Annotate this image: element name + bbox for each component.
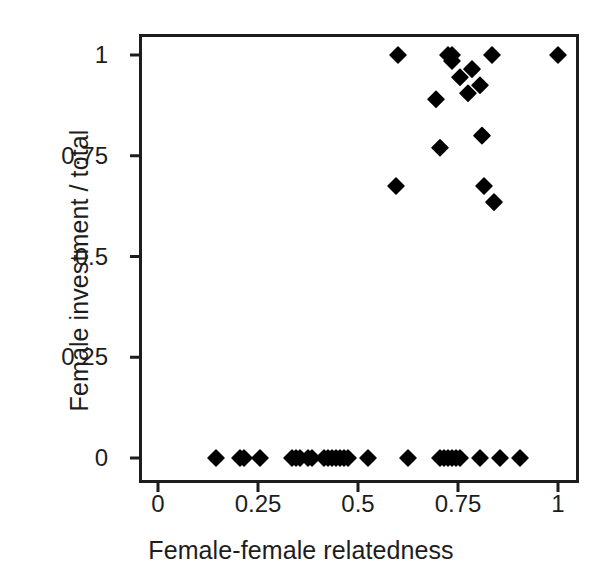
data-point — [492, 450, 508, 466]
y-axis-title: Female investment / total — [65, 41, 94, 501]
data-point — [432, 140, 448, 156]
data-point — [388, 178, 404, 194]
x-tick-label: 0.75 — [435, 490, 482, 518]
data-point — [360, 450, 376, 466]
plot-frame — [141, 36, 578, 482]
data-point — [550, 47, 566, 63]
x-tick-label: 1 — [551, 490, 564, 518]
data-point — [208, 450, 224, 466]
data-point — [252, 450, 268, 466]
scatter-plot-figure: 00.250.50.751 00.250.50.751 Female-femal… — [0, 0, 602, 588]
data-point — [428, 91, 444, 107]
data-point — [476, 178, 492, 194]
data-point — [486, 194, 502, 210]
data-point — [472, 450, 488, 466]
data-point — [474, 128, 490, 144]
x-tick-label: 0.25 — [235, 490, 282, 518]
plot-frame-rect — [141, 36, 578, 482]
data-point — [484, 47, 500, 63]
x-axis-title: Female-female relatedness — [0, 536, 602, 565]
x-tick-label: 0 — [151, 490, 164, 518]
x-tick-label: 0.5 — [341, 490, 374, 518]
data-point-group — [208, 47, 566, 466]
data-point — [512, 450, 528, 466]
data-point — [390, 47, 406, 63]
data-point — [400, 450, 416, 466]
